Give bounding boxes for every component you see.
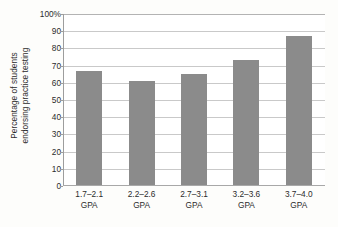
y-axis-line <box>63 14 64 186</box>
y-tick-mark-80 <box>60 48 63 49</box>
y-axis-title-line-2: endorsing practice testing <box>20 47 31 143</box>
x-tick-label-range: 2.2–2.6 <box>128 189 156 199</box>
y-axis-title-line-1: Percentage of students <box>10 52 20 138</box>
x-axis-tick-labels: 1.7–2.1GPA2.2–2.6GPA2.7–3.1GPA3.2–3.6GPA… <box>63 189 325 223</box>
x-tick-label: 2.2–2.6GPA <box>115 189 167 211</box>
gridline-90 <box>63 31 325 32</box>
x-tick-label-unit: GPA <box>168 200 220 211</box>
bar <box>129 81 155 186</box>
x-tick-label: 3.2–3.6GPA <box>220 189 272 211</box>
gridline-100 <box>63 14 325 15</box>
y-axis-tick-labels: 0102030405060708090100% <box>33 14 61 186</box>
y-tick-mark-20 <box>60 152 63 153</box>
y-tick-mark-70 <box>60 66 63 67</box>
x-axis-line <box>63 185 325 187</box>
x-tick-label-unit: GPA <box>63 200 115 211</box>
x-tick-label-unit: GPA <box>115 200 167 211</box>
bar <box>181 74 207 186</box>
x-tick-label-unit: GPA <box>220 200 272 211</box>
y-tick-mark-90 <box>60 31 63 32</box>
y-tick-mark-50 <box>60 100 63 101</box>
x-tick-label-unit: GPA <box>273 200 325 211</box>
bar <box>233 60 259 186</box>
x-tick-label-range: 3.7–4.0 <box>285 189 313 199</box>
x-tick-label-range: 3.2–3.6 <box>233 189 261 199</box>
x-tick-label: 1.7–2.1GPA <box>63 189 115 211</box>
y-tick-mark-100 <box>60 14 63 15</box>
bar-chart-figure: Percentage of students endorsing practic… <box>0 0 338 227</box>
y-tick-mark-0 <box>60 186 63 187</box>
y-tick-mark-40 <box>60 117 63 118</box>
y-tick-mark-60 <box>60 83 63 84</box>
plot-area <box>63 14 325 186</box>
bar <box>286 36 312 186</box>
y-tick-mark-30 <box>60 134 63 135</box>
bar <box>76 71 102 186</box>
y-tick-label-100: 100% <box>40 9 61 19</box>
y-tick-mark-10 <box>60 169 63 170</box>
x-tick-label-range: 2.7–3.1 <box>180 189 208 199</box>
x-tick-label: 2.7–3.1GPA <box>168 189 220 211</box>
x-tick-label: 3.7–4.0GPA <box>273 189 325 211</box>
x-tick-label-range: 1.7–2.1 <box>75 189 103 199</box>
y-axis-title-text: Percentage of students endorsing practic… <box>10 47 31 143</box>
